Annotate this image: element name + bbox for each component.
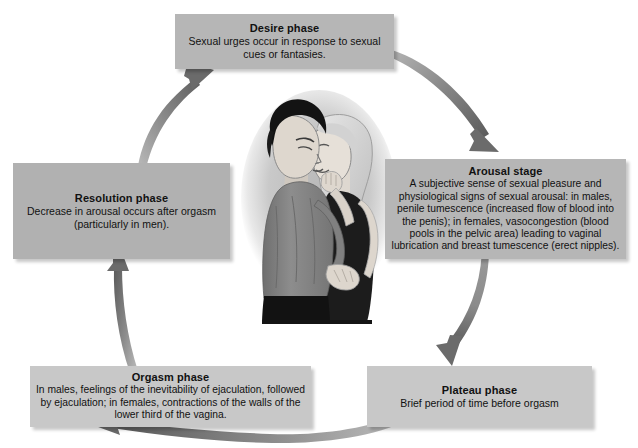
- phase-box-resolution[interactable]: Resolution phase Decrease in arousal occ…: [13, 163, 230, 259]
- phase-body-desire: Sexual urges occur in response to sexual…: [175, 35, 394, 60]
- phase-box-orgasm[interactable]: Orgasm phase In males, feelings of the i…: [30, 366, 311, 427]
- phase-title-arousal: Arousal stage: [468, 165, 542, 178]
- phase-body-plateau: Brief period of time before orgasm: [396, 397, 563, 410]
- arrow-arousal-to-plateau: [436, 248, 489, 366]
- phase-title-resolution: Resolution phase: [75, 192, 168, 205]
- lower-body-crop: [262, 320, 372, 324]
- phase-body-orgasm: In males, feelings of the inevitability …: [30, 384, 311, 421]
- phase-box-plateau[interactable]: Plateau phase Brief period of time befor…: [367, 366, 592, 427]
- arrow-resolution-to-desire: [137, 62, 214, 173]
- phase-title-desire: Desire phase: [250, 22, 320, 35]
- sexual-response-cycle-diagram: Desire phase Sexual urges occur in respo…: [0, 0, 638, 448]
- arrow-orgasm-to-resolution: [107, 242, 138, 373]
- phase-body-resolution: Decrease in arousal occurs after orgasm …: [13, 205, 230, 230]
- phase-title-plateau: Plateau phase: [442, 384, 517, 397]
- phase-body-arousal: A subjective sense of sexual pleasure an…: [385, 178, 626, 252]
- phase-box-desire[interactable]: Desire phase Sexual urges occur in respo…: [175, 14, 394, 69]
- phase-title-orgasm: Orgasm phase: [132, 371, 210, 384]
- phase-box-arousal[interactable]: Arousal stage A subjective sense of sexu…: [385, 159, 626, 259]
